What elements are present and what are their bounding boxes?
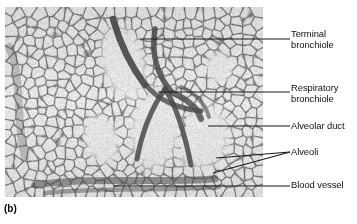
micrograph-image: [5, 7, 263, 197]
figure-panel: Terminal bronchiole Respiratory bronchio…: [0, 0, 357, 224]
label-alveoli: Alveoli: [291, 146, 318, 157]
label-blood-vessel: Blood vessel: [291, 179, 344, 190]
panel-letter-label: (b): [4, 203, 17, 214]
label-terminal-bronchiole: Terminal bronchiole: [291, 28, 334, 50]
label-alveolar-duct: Alveolar duct: [291, 120, 345, 131]
label-respiratory-bronchiole: Respiratory bronchiole: [291, 82, 338, 104]
lung-tissue-micrograph: [5, 7, 263, 197]
